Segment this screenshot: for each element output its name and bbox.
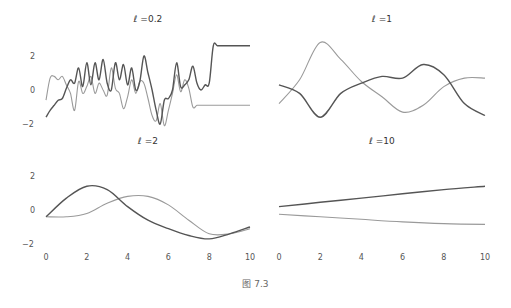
x-tick-labels: 0246810 — [276, 253, 490, 262]
x-tick-label: 6 — [166, 253, 171, 262]
y-tick-label: 2 — [30, 52, 35, 61]
line-series-group — [46, 186, 250, 239]
line-series — [46, 186, 250, 239]
panel-l-1: ℓ =1 — [279, 14, 485, 117]
x-tick-label: 4 — [359, 253, 364, 262]
x-tick-label: 10 — [480, 253, 490, 262]
line-series — [279, 186, 485, 206]
panel-l-2: ℓ =2 2 0 −2 0246810 — [22, 136, 255, 262]
y-tick-label: −2 — [22, 240, 34, 249]
y-tick-label: 0 — [30, 86, 35, 95]
line-series — [46, 195, 250, 235]
panel-title: ℓ =2 — [137, 136, 158, 146]
y-tick-label: 2 — [30, 172, 35, 181]
x-tick-label: 2 — [84, 253, 89, 262]
figure-caption: 图 7.3 — [0, 277, 511, 290]
x-tick-label: 10 — [245, 253, 255, 262]
x-tick-label: 8 — [441, 253, 446, 262]
line-series — [279, 214, 485, 224]
line-series-group — [46, 43, 250, 126]
panel-l-10: ℓ =10 0246810 — [276, 136, 490, 262]
line-series-group — [279, 42, 485, 117]
panel-l-0-2: ℓ =0.2 2 0 −2 — [22, 14, 250, 129]
x-tick-label: 6 — [400, 253, 405, 262]
x-tick-label: 4 — [125, 253, 130, 262]
panel-title: ℓ =0.2 — [133, 14, 162, 24]
x-tick-label: 0 — [43, 253, 48, 262]
line-series — [46, 43, 250, 124]
line-series-group — [279, 186, 485, 224]
y-tick-label: 0 — [30, 206, 35, 215]
y-tick-label: −2 — [22, 120, 34, 129]
x-tick-label: 8 — [207, 253, 212, 262]
line-series — [279, 42, 485, 113]
x-tick-label: 2 — [318, 253, 323, 262]
figure: ℓ =0.2 2 0 −2 ℓ =1 ℓ =2 2 0 −2 0246810 ℓ… — [0, 0, 511, 308]
panel-title: ℓ =10 — [368, 136, 395, 146]
line-series — [279, 64, 485, 117]
panel-title: ℓ =1 — [371, 14, 392, 24]
x-tick-labels: 0246810 — [43, 253, 255, 262]
x-tick-label: 0 — [276, 253, 281, 262]
